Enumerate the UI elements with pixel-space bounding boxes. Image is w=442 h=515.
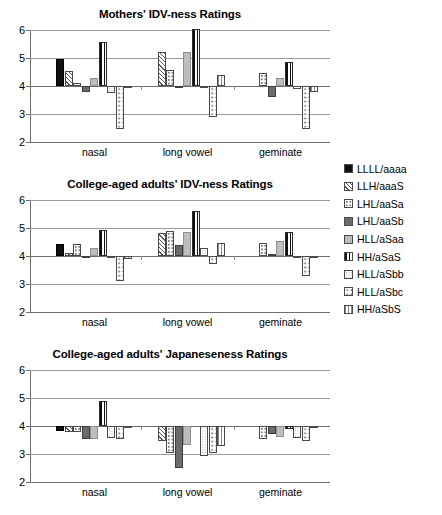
grid-line xyxy=(30,30,330,31)
bar xyxy=(217,426,225,446)
bar xyxy=(90,426,98,439)
y-axis-tick-mark xyxy=(26,228,30,229)
grid-line xyxy=(30,370,330,371)
y-axis-tick-label: 3 xyxy=(19,279,25,290)
y-axis-tick-label: 4 xyxy=(19,81,25,92)
y-axis-tick-label: 2 xyxy=(19,307,25,318)
y-axis-tick-label: 3 xyxy=(19,449,25,460)
y-axis-tick-mark xyxy=(26,454,30,455)
bar xyxy=(82,256,90,258)
bar xyxy=(73,426,81,432)
bar xyxy=(175,426,183,468)
legend-item: LLH/aaaS xyxy=(344,178,442,196)
y-axis-tick-label: 6 xyxy=(19,195,25,206)
x-axis-category-label: nasal xyxy=(82,316,107,328)
x-axis-category-label: geminate xyxy=(259,316,302,328)
bar xyxy=(124,426,132,428)
bar xyxy=(293,86,301,89)
y-axis-tick-label: 5 xyxy=(19,223,25,234)
y-axis-tick-mark xyxy=(26,284,30,285)
legend-item-label: LHL/aaSb xyxy=(357,216,404,227)
bar xyxy=(90,248,98,256)
x-axis-minor-tick xyxy=(141,426,142,430)
bar xyxy=(158,52,166,86)
y-axis-tick-mark xyxy=(26,200,30,201)
y-axis-tick-label: 6 xyxy=(19,25,25,36)
y-axis-tick-mark xyxy=(26,370,30,371)
y-axis-tick-mark xyxy=(26,426,30,427)
grid-line xyxy=(30,114,330,115)
x-axis-category-label: nasal xyxy=(82,146,107,158)
x-axis-category-label: geminate xyxy=(259,146,302,158)
y-axis-tick-label: 5 xyxy=(19,393,25,404)
bar xyxy=(73,83,81,86)
bar xyxy=(259,73,267,86)
plot-area: 23456nasallong vowelgeminate xyxy=(30,370,330,482)
y-axis-tick-label: 4 xyxy=(19,421,25,432)
bar xyxy=(99,42,107,86)
bar xyxy=(310,426,318,428)
x-axis-category-label: long vowel xyxy=(163,146,213,158)
bar xyxy=(200,248,208,256)
bar xyxy=(285,426,293,429)
bar xyxy=(107,256,115,258)
bar xyxy=(56,59,64,86)
grid-line xyxy=(30,256,330,257)
bar xyxy=(166,70,174,86)
bar xyxy=(217,75,225,86)
bar xyxy=(82,426,90,439)
bar xyxy=(99,401,107,426)
x-axis-category-label: long vowel xyxy=(163,486,213,498)
x-axis-category-label: geminate xyxy=(259,486,302,498)
bar xyxy=(192,211,200,256)
bar xyxy=(285,62,293,86)
bar xyxy=(175,86,183,88)
grid-line xyxy=(30,200,330,201)
bar xyxy=(158,233,166,256)
bar xyxy=(302,256,310,276)
bar xyxy=(90,78,98,86)
legend-item-label: HLL/aSbb xyxy=(357,269,404,280)
x-axis-minor-tick xyxy=(141,86,142,90)
bar xyxy=(268,86,276,97)
bar xyxy=(259,426,267,439)
bar xyxy=(310,256,318,258)
legend-item-label: HLL/aSbc xyxy=(357,287,403,298)
legend-item: HLL/aSbc xyxy=(344,283,442,301)
bar xyxy=(310,86,318,92)
bar xyxy=(200,86,208,88)
light-dot-swatch xyxy=(344,199,353,208)
legend-item: LHL/aaSb xyxy=(344,213,442,231)
solid-black-swatch xyxy=(344,164,353,173)
bar xyxy=(259,243,267,256)
bar xyxy=(116,256,124,281)
bar xyxy=(65,253,73,256)
grid-line xyxy=(30,58,330,59)
bar xyxy=(183,232,191,256)
x-axis-category-label: long vowel xyxy=(163,316,213,328)
bar xyxy=(107,426,115,438)
x-axis-minor-tick xyxy=(234,426,235,430)
legend-item-label: LHL/aaSa xyxy=(357,199,404,210)
y-axis-tick-label: 2 xyxy=(19,477,25,488)
chart-title: Mothers' IDV-ness Ratings xyxy=(0,8,340,20)
bar xyxy=(200,426,208,456)
chart-panel-mothers-idv: Mothers' IDV-ness Ratings 23456nasallong… xyxy=(0,8,340,176)
bar xyxy=(268,254,276,256)
bar xyxy=(285,232,293,256)
y-axis-tick-label: 3 xyxy=(19,109,25,120)
bar xyxy=(175,245,183,256)
bar xyxy=(166,426,174,453)
x-axis-category-label: nasal xyxy=(82,486,107,498)
grid-line xyxy=(30,284,330,285)
chart-legend: LLLL/aaaaLLH/aaaSLHL/aaSaLHL/aaSbHLL/aSa… xyxy=(344,160,442,318)
bar xyxy=(276,78,284,86)
y-axis-tick-label: 6 xyxy=(19,365,25,376)
grid-line xyxy=(30,482,330,483)
y-axis-tick-mark xyxy=(26,142,30,143)
x-axis-minor-tick xyxy=(141,256,142,260)
y-axis-tick-label: 5 xyxy=(19,53,25,64)
bar xyxy=(116,86,124,129)
bar xyxy=(107,86,115,93)
y-axis-tick-mark xyxy=(26,86,30,87)
